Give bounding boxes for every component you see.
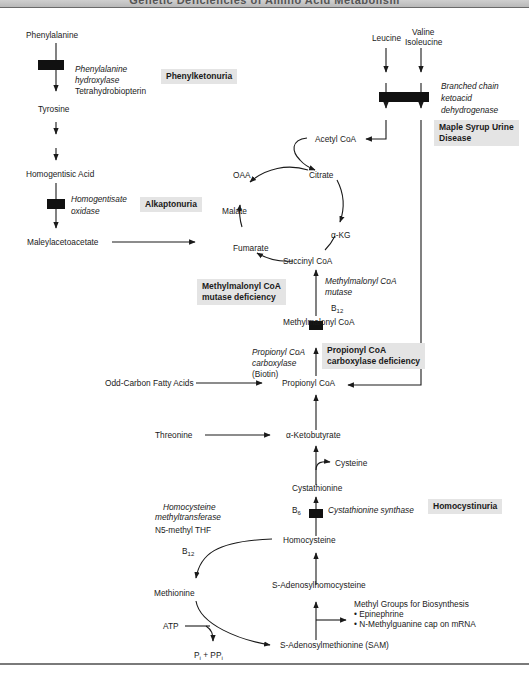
compound-methylmalonyl-coa: Methylmalonyl CoA xyxy=(283,317,354,327)
compound-threonine: Threonine xyxy=(155,430,192,440)
disease-mma-line2: mutase deficiency xyxy=(202,292,281,303)
compound-tyrosine: Tyrosine xyxy=(38,104,69,114)
disease-msud: Maple Syrup Urine Disease xyxy=(434,120,519,146)
compound-pi-ppi: Pi + PPi xyxy=(194,650,223,663)
compound-atp: ATP xyxy=(163,621,179,631)
compound-alpha-kg: α-KG xyxy=(331,230,351,240)
compound-acetyl-coa: Acetyl CoA xyxy=(315,134,356,144)
b12-subscript: 12 xyxy=(337,308,344,314)
methyl-groups-item: • Epinephrine xyxy=(354,609,404,619)
compound-s-adenosylhomocysteine: S-Adenosylhomocysteine xyxy=(272,580,366,590)
compound-propionyl-coa: Propionyl CoA xyxy=(282,378,335,388)
cofactor-b12: B12 xyxy=(331,303,343,316)
compound-valine: Valine xyxy=(412,27,434,37)
cofactor-b6: B6 xyxy=(292,505,301,518)
enzyme-mmcoa-mutase-line2: mutase xyxy=(325,287,352,297)
disease-homocystinuria: Homocystinuria xyxy=(428,499,502,514)
disease-pcc-line2: carboxylase deficiency xyxy=(327,356,420,367)
disease-msud-line2: Disease xyxy=(439,133,514,144)
compound-sam: S-Adenosylmethionine (SAM) xyxy=(280,640,389,650)
disease-mma-line1: Methylmalonyl CoA xyxy=(202,281,281,292)
disease-pcc-line1: Propionyl CoA xyxy=(327,345,420,356)
compound-methionine: Methionine xyxy=(154,588,195,598)
block-cbs xyxy=(309,509,323,518)
compound-homocysteine: Homocysteine xyxy=(283,535,336,545)
compound-cystathionine: Cystathionine xyxy=(292,483,342,493)
compound-phenylalanine: Phenylalanine xyxy=(26,30,78,40)
enzyme-bckd-line3: dehydrogenase xyxy=(441,105,498,115)
disease-phenylketonuria: Phenylketonuria xyxy=(161,69,237,84)
enzyme-bckd-line1: Branched chain xyxy=(441,81,499,91)
enzyme-homogentisate-oxidase-line1: Homogentisate xyxy=(71,194,127,204)
compound-maleylacetoacetate: Maleylacetoacetate xyxy=(27,237,99,247)
enzyme-pcc-line2: carboxylase xyxy=(252,358,296,368)
compound-homogentisic-acid: Homogentisic Acid xyxy=(26,169,94,179)
enzyme-hmt-line1: Homocysteine xyxy=(163,502,216,512)
compound-leucine: Leucine xyxy=(372,33,401,43)
enzyme-phe-hydroxylase-line2: hydroxylase xyxy=(75,75,119,85)
disease-msud-line1: Maple Syrup Urine xyxy=(439,122,514,133)
block-phe-hydroxylase xyxy=(38,60,64,70)
compound-malate: Malate xyxy=(222,206,247,216)
methyl-groups-item: • N-Methylguanine cap on mRNA xyxy=(354,619,476,629)
enzyme-pcc-line1: Propionyl CoA xyxy=(252,347,305,357)
b6-subscript: 6 xyxy=(298,510,301,516)
disease-pcc-deficiency: Propionyl CoA carboxylase deficiency xyxy=(322,343,425,369)
enzyme-homogentisate-oxidase-line2: oxidase xyxy=(71,206,100,216)
methyl-groups-title: Methyl Groups for Biosynthesis xyxy=(354,599,469,609)
compound-citrate: Citrate xyxy=(309,170,333,180)
compound-n5-methyl-thf: N5-methyl THF xyxy=(155,525,211,535)
block-bckd xyxy=(379,92,429,102)
cofactor-tetrahydrobiopterin: Tetrahydrobiopterin xyxy=(75,86,146,96)
disease-mma: Methylmalonyl CoA mutase deficiency xyxy=(197,279,286,305)
enzyme-mmcoa-mutase-line1: Methylmalonyl CoA xyxy=(325,276,396,286)
compound-fumarate: Fumarate xyxy=(233,243,269,253)
enzyme-cystathionine-synthase: Cystathionine synthase xyxy=(328,505,414,515)
cofactor-biotin: (Biotin) xyxy=(252,369,278,379)
enzyme-bckd-line2: ketoacid xyxy=(441,93,472,103)
compound-cysteine: Cysteine xyxy=(335,458,367,468)
compound-oaa: OAA xyxy=(233,170,251,180)
compound-alpha-ketobutyrate: α-Ketobutyrate xyxy=(286,430,341,440)
enzyme-hmt-line2: methyltransferase xyxy=(155,512,221,522)
block-homogentisate-oxidase xyxy=(47,199,65,209)
compound-odd-carbon-fatty-acids: Odd-Carbon Fatty Acids xyxy=(105,378,194,388)
disease-alkaptonuria: Alkaptonuria xyxy=(140,197,202,212)
cofactor-b12-hmt: B12 xyxy=(182,546,194,559)
compound-isoleucine: Isoleucine xyxy=(405,37,442,47)
enzyme-phe-hydroxylase-line1: Phenylalanine xyxy=(75,64,127,74)
compound-succinyl-coa: Succinyl CoA xyxy=(283,256,332,266)
footer-divider xyxy=(0,663,529,665)
b12-hmt-subscript: 12 xyxy=(188,551,195,557)
